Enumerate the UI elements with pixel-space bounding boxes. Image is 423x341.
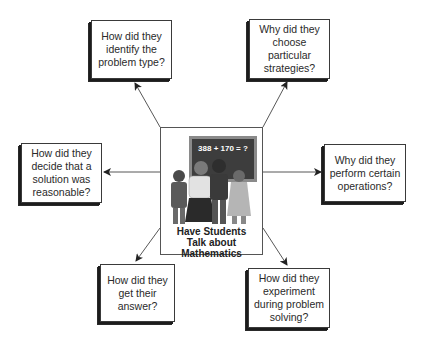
- center-topic-box: 388 + 170 = ?: [160, 127, 263, 255]
- question-text: Why did they choose particular strategie…: [259, 23, 320, 75]
- question-text: How did they decide that a solution was …: [31, 147, 92, 199]
- arrow-to-top-left: [135, 83, 160, 127]
- question-box-left: How did they decide that a solution was …: [21, 143, 102, 203]
- question-box-bottom-right: How did they experiment during problem s…: [248, 268, 330, 328]
- arrow-to-top-right: [263, 82, 287, 127]
- students-illustration: 388 + 170 = ?: [165, 132, 259, 226]
- students-figures: [165, 132, 259, 226]
- arrow-to-bottom-right: [263, 228, 287, 265]
- arrow-to-bottom-left: [136, 228, 160, 261]
- diagram-canvas: 388 + 170 = ?: [0, 0, 423, 341]
- question-text: How did they get their answer?: [107, 274, 168, 313]
- center-topic-title: Have Students Talk about Mathematics: [161, 226, 262, 259]
- question-text: How did they identify the problem type?: [98, 30, 165, 69]
- question-text: Why did they perform certain operations?: [330, 154, 401, 193]
- question-text: How did they experiment during problem s…: [254, 272, 324, 324]
- question-box-right: Why did they perform certain operations?: [324, 144, 406, 202]
- question-box-top-left: How did they identify the problem type?: [91, 20, 172, 79]
- question-box-top-right: Why did they choose particular strategie…: [249, 19, 330, 79]
- question-box-bottom-left: How did they get their answer?: [100, 264, 175, 322]
